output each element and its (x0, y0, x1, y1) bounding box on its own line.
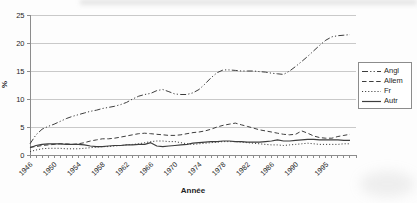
y-tick-label-15: 15 (16, 67, 24, 76)
legend-line-sample-allem (362, 77, 381, 86)
x-tick-label-1950: 1950 (41, 160, 59, 178)
x-tick-label-1958: 1958 (89, 160, 107, 178)
series-line-fr (30, 141, 350, 152)
y-tick-label-10: 10 (16, 95, 24, 104)
legend-item-autr: Autr (362, 96, 408, 106)
x-tick-label-1966: 1966 (137, 160, 155, 178)
x-tick-label-1982: 1982 (234, 160, 252, 178)
x-tick-label-1974: 1974 (186, 160, 204, 178)
legend-label-autr: Autr (384, 96, 398, 106)
x-tick-label-1990: 1990 (282, 160, 300, 178)
x-tick-label-1995: 1995 (313, 160, 331, 178)
y-tick-label-25: 25 (16, 11, 24, 20)
x-tick-label-1954: 1954 (65, 160, 83, 178)
chart-figure: 0510152025194619501954195819621966197019… (0, 0, 417, 203)
y-tick-label-0: 0 (20, 151, 24, 160)
legend-label-angl: Angl (384, 66, 399, 76)
chart-canvas: 0510152025194619501954195819621966197019… (0, 0, 417, 203)
legend-item-allem: Allem (362, 76, 408, 86)
y-tick-label-20: 20 (16, 39, 24, 48)
x-axis-title: Année (30, 186, 356, 195)
x-tick-label-1970: 1970 (162, 160, 180, 178)
x-tick-label-1978: 1978 (210, 160, 228, 178)
x-tick-label-1962: 1962 (113, 160, 131, 178)
y-tick-label-5: 5 (20, 123, 24, 132)
legend-label-allem: Allem (384, 76, 403, 86)
x-tick-label-1946: 1946 (17, 160, 35, 178)
legend-line-sample-angl (362, 67, 381, 76)
legend-label-fr: Fr (384, 86, 391, 96)
legend-item-angl: Angl (362, 66, 408, 76)
x-tick-label-1986: 1986 (258, 160, 276, 178)
legend-line-sample-fr (362, 87, 381, 96)
legend: AnglAllemFrAutr (358, 62, 412, 109)
legend-line-sample-autr (362, 97, 381, 106)
legend-item-fr: Fr (362, 86, 408, 96)
y-axis-title: % (0, 81, 9, 88)
